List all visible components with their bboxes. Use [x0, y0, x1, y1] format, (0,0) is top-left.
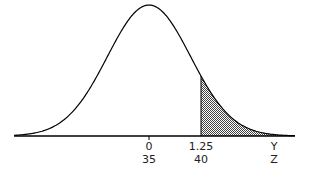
label-y-1.25: 1.25 — [181, 141, 221, 153]
shaded-tail-region — [201, 76, 295, 136]
label-y-0: 0 — [129, 141, 169, 153]
label-y-axis-name: Y — [254, 141, 294, 153]
label-z-axis-name: Z — [254, 154, 294, 166]
label-z-35: 35 — [129, 154, 169, 166]
normal-curve — [14, 5, 295, 136]
label-z-40: 40 — [181, 154, 221, 166]
